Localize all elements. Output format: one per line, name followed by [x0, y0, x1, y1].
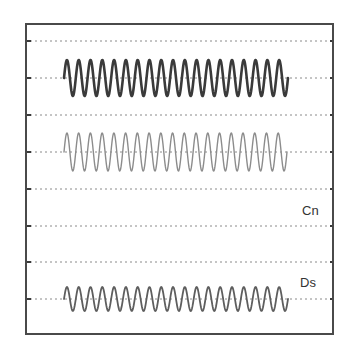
- label-cn: Cn: [302, 203, 319, 218]
- label-ds: Ds: [300, 275, 316, 290]
- waveform-traces: [64, 60, 288, 311]
- waveform-ds: [64, 287, 288, 311]
- waveform-trace-2: [64, 133, 287, 171]
- waveform-trace-1: [64, 60, 288, 96]
- waveform-figure: Cn Ds: [0, 0, 350, 353]
- plot-frame: [26, 24, 333, 334]
